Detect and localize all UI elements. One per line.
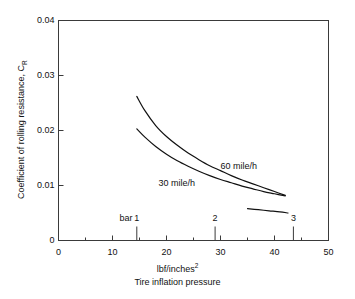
y-tick-label: 0.01	[37, 181, 55, 190]
y-axis-label-text: Coefficient of rolling resistance, C	[16, 65, 26, 199]
plot-frame	[59, 21, 329, 241]
data-curve-lower-segment	[248, 209, 289, 213]
x-tick-label: 20	[147, 248, 187, 257]
bar-axis-unit-label: bar	[101, 214, 151, 223]
x-axis-title: Tire inflation pressure	[0, 278, 355, 287]
bar-axis-tick-label: 3	[273, 214, 313, 223]
x-tick-label: 40	[255, 248, 295, 257]
y-tick-label: 0	[49, 236, 54, 245]
x-tick-label: 10	[93, 248, 133, 257]
x-axis-unit-label: lbf/inches2	[0, 265, 355, 274]
y-axis-label: Coefficient of rolling resistance, CR	[17, 60, 26, 199]
x-tick-label: 0	[39, 248, 79, 257]
y-tick-label: 0.02	[37, 126, 55, 135]
x-axis-unit-superscript: 2	[195, 262, 199, 269]
y-tick-label: 0.03	[37, 71, 55, 80]
curve-annotation-label: 60 mile/h	[221, 162, 258, 171]
curve-annotation-label: 30 mile/h	[158, 179, 195, 188]
x-tick-label: 50	[309, 248, 349, 257]
x-axis-unit-text: lbf/inches	[157, 264, 195, 274]
x-tick-label: 30	[201, 248, 241, 257]
y-axis-label-subscript: R	[21, 60, 28, 65]
rolling-resistance-chart: 00.010.020.030.0401020304050123bar60 mil…	[0, 0, 355, 299]
y-tick-label: 0.04	[37, 16, 55, 25]
bar-axis-tick-label: 2	[195, 214, 235, 223]
